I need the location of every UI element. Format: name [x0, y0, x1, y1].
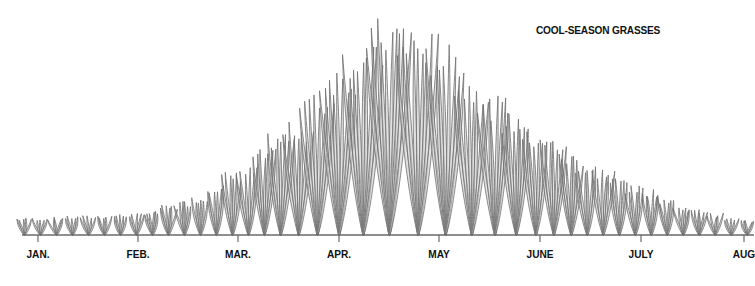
grass-clump	[48, 217, 63, 235]
grass-clump	[192, 198, 208, 235]
grass-clump	[32, 218, 47, 235]
month-label-july: JULY	[629, 248, 654, 260]
grass-clump	[98, 216, 112, 235]
grass-clump	[725, 218, 739, 235]
month-ticks	[38, 235, 744, 242]
grass-clump	[642, 189, 658, 235]
grass-clump	[559, 154, 583, 235]
grass-clump	[114, 215, 126, 235]
grass-clump	[174, 201, 191, 235]
grass-clump	[673, 208, 689, 235]
grass-clump	[17, 218, 31, 235]
month-label-feb: FEB.	[126, 248, 149, 260]
month-label-apr: APR.	[327, 248, 351, 260]
month-label-mar: MAR.	[225, 248, 251, 260]
grass-clump	[691, 210, 707, 235]
grass-clump	[658, 197, 674, 235]
grass-clump	[130, 213, 145, 235]
grass-clump	[208, 186, 224, 235]
grass-clump	[741, 220, 753, 235]
grass-clump	[66, 216, 78, 235]
month-label-jan: JAN.	[26, 248, 49, 260]
grass-clump	[610, 179, 627, 235]
grass-clump	[625, 186, 643, 235]
month-label-may: MAY	[428, 248, 450, 260]
month-label-june: JUNE	[527, 248, 554, 260]
chart-title: COOL-SEASON GRASSES	[536, 24, 660, 36]
grass-clump	[145, 211, 158, 235]
grass-clump	[707, 213, 723, 235]
month-label-aug: AUG	[733, 248, 755, 260]
grass-clump	[80, 216, 95, 235]
grass-clumps	[17, 19, 753, 235]
